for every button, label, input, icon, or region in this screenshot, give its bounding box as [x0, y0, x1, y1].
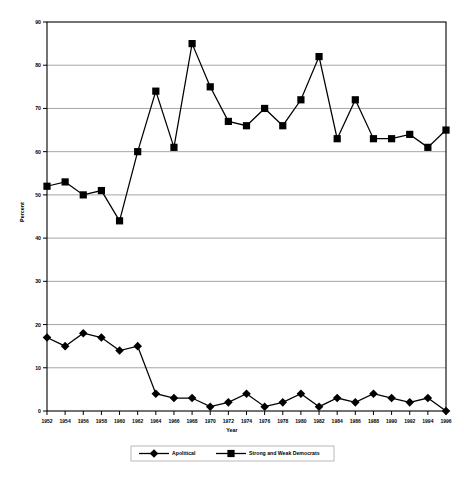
x-tick-label: 1978 — [277, 418, 288, 424]
y-tick-label: 90 — [35, 19, 41, 25]
y-tick-label: 40 — [35, 235, 41, 241]
y-tick-label: 10 — [35, 365, 41, 371]
x-tick-label: 1962 — [132, 418, 143, 424]
data-point-marker — [297, 96, 304, 103]
y-tick-label: 20 — [35, 322, 41, 328]
data-point-marker — [261, 105, 268, 112]
data-point-marker — [442, 407, 451, 416]
data-point-marker — [405, 398, 414, 407]
x-tick-label: 1984 — [332, 418, 343, 424]
x-tick-label: 1994 — [422, 418, 433, 424]
data-point-marker — [206, 402, 215, 411]
series-line — [47, 333, 446, 411]
x-tick-label: 1982 — [313, 418, 324, 424]
data-point-marker — [279, 122, 286, 129]
x-tick-label: 1988 — [368, 418, 379, 424]
x-tick-label: 1974 — [241, 418, 252, 424]
line-chart: 0102030405060708090 19521954195619581960… — [0, 0, 464, 479]
x-tick-label: 1986 — [350, 418, 361, 424]
x-tick-label: 1990 — [386, 418, 397, 424]
data-point-marker — [242, 389, 251, 398]
y-tick-label: 0 — [38, 408, 41, 414]
data-point-marker — [61, 342, 70, 351]
data-point-marker — [97, 333, 106, 342]
x-tick-label: 1966 — [168, 418, 179, 424]
data-point-marker — [333, 394, 342, 403]
data-point-marker — [224, 398, 233, 407]
chart-container: 0102030405060708090 19521954195619581960… — [0, 0, 464, 479]
x-tick-label: 1970 — [205, 418, 216, 424]
data-point-marker — [352, 96, 359, 103]
data-point-marker — [62, 178, 69, 185]
data-point-marker — [351, 398, 360, 407]
data-point-marker — [188, 40, 195, 47]
x-tick-label: 1992 — [404, 418, 415, 424]
y-axis-title: Percent — [19, 202, 25, 222]
x-tick-label: 1964 — [150, 418, 161, 424]
y-axis-ticks: 0102030405060708090 — [35, 19, 47, 414]
data-point-marker — [424, 144, 431, 151]
x-tick-label: 1952 — [41, 418, 52, 424]
x-tick-label: 1956 — [78, 418, 89, 424]
data-point-marker — [334, 135, 341, 142]
y-tick-label: 30 — [35, 278, 41, 284]
data-point-marker — [80, 191, 87, 198]
data-point-marker — [278, 398, 287, 407]
chart-legend: ApoliticalStrong and Weak Democrats — [131, 446, 334, 461]
data-point-marker — [225, 118, 232, 125]
x-axis-title: Year — [226, 427, 238, 433]
x-tick-label: 1958 — [96, 418, 107, 424]
data-point-marker — [297, 389, 306, 398]
data-point-marker — [152, 389, 161, 398]
series-apolitical — [43, 329, 451, 415]
x-tick-label: 1972 — [223, 418, 234, 424]
data-point-marker — [243, 122, 250, 129]
series-line — [47, 44, 446, 221]
data-point-marker — [79, 329, 88, 338]
legend-label: Apolitical — [172, 450, 196, 456]
y-tick-label: 80 — [35, 62, 41, 68]
data-point-marker — [388, 135, 395, 142]
x-tick-label: 1960 — [114, 418, 125, 424]
data-point-marker — [152, 88, 159, 95]
legend-label: Strong and Weak Democrats — [249, 450, 320, 456]
data-point-marker — [170, 144, 177, 151]
data-point-marker — [116, 217, 123, 224]
y-tick-label: 50 — [35, 192, 41, 198]
data-point-marker — [98, 187, 105, 194]
data-point-marker — [369, 389, 378, 398]
data-point-marker — [387, 394, 396, 403]
data-point-marker — [207, 83, 214, 90]
x-tick-label: 1976 — [259, 418, 270, 424]
data-point-marker — [442, 126, 449, 133]
series-democrats — [43, 40, 449, 224]
plot-area-border — [47, 22, 446, 411]
data-point-marker — [406, 131, 413, 138]
data-point-marker — [424, 394, 433, 403]
grid-lines — [47, 65, 446, 368]
data-point-marker — [134, 148, 141, 155]
data-point-marker — [170, 394, 179, 403]
data-series-group — [43, 40, 451, 415]
x-axis-ticks: 1952195419561958196019621964196619681970… — [41, 411, 451, 424]
data-point-marker — [188, 394, 197, 403]
data-point-marker — [315, 53, 322, 60]
data-point-marker — [133, 342, 142, 351]
x-tick-label: 1996 — [440, 418, 451, 424]
y-tick-label: 60 — [35, 149, 41, 155]
data-point-marker — [115, 346, 124, 355]
x-tick-label: 1968 — [187, 418, 198, 424]
x-tick-label: 1954 — [60, 418, 71, 424]
data-point-marker — [260, 402, 269, 411]
data-point-marker — [370, 135, 377, 142]
data-point-marker — [43, 333, 52, 342]
data-point-marker — [43, 183, 50, 190]
y-tick-label: 70 — [35, 105, 41, 111]
legend-marker-icon — [227, 450, 234, 457]
data-point-marker — [315, 402, 324, 411]
x-tick-label: 1980 — [295, 418, 306, 424]
